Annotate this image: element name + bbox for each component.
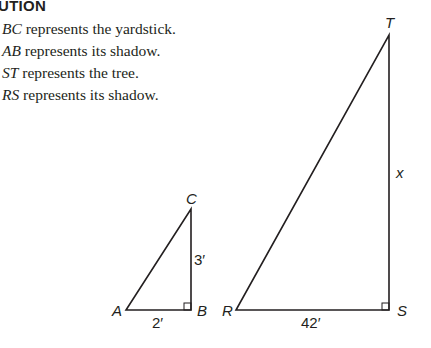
right-angle-marker [382, 303, 389, 310]
similar-triangles-figure: A B C 3′ 2′ R S T x 42′ [0, 0, 431, 348]
height-label-st: x [395, 164, 404, 181]
large-triangle: R S T x 42′ [222, 14, 407, 331]
small-triangle: A B C 3′ 2′ [111, 190, 207, 331]
vertex-label-r: R [222, 302, 233, 319]
right-angle-marker [184, 303, 191, 310]
vertex-label-b: B [197, 302, 207, 319]
vertex-label-a: A [111, 302, 122, 319]
base-label-ab: 2′ [152, 314, 163, 331]
base-label-rs: 42′ [301, 314, 321, 331]
vertex-label-t: T [385, 14, 396, 31]
vertex-label-c: C [186, 190, 197, 207]
height-label-bc: 3′ [194, 251, 205, 268]
vertex-label-s: S [397, 302, 407, 319]
